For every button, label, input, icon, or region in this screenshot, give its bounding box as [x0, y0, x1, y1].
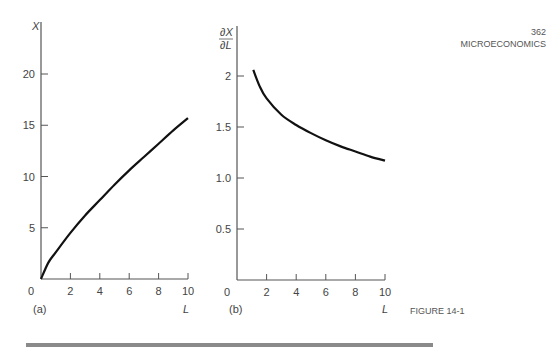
y-axis-label-b: ∂X ∂L [219, 26, 233, 51]
y-tick-label: 10 [23, 171, 35, 183]
x-tick-label: 8 [156, 285, 162, 297]
y-tick-label: 5 [29, 222, 35, 234]
panel-label-b: (b) [229, 303, 242, 315]
panel-b: 02468100.51.01.52 ∂X ∂L L (b) [216, 26, 391, 315]
x-tick-label: 2 [67, 285, 73, 297]
y-label-denominator: ∂L [220, 39, 232, 51]
x-tick-label: 8 [352, 286, 358, 298]
panel-a: 02468105101520 X L (a) [23, 20, 194, 315]
x-axis-label-b: L [382, 303, 388, 315]
curve-b [253, 70, 385, 161]
x-tick-label: 2 [264, 286, 270, 298]
ticks-b: 02468100.51.01.52 [216, 70, 391, 298]
y-tick-label: 0.5 [216, 223, 231, 235]
x-tick-label: 0 [224, 286, 230, 298]
x-tick-label: 6 [126, 285, 132, 297]
y-axis-label-a: X [31, 20, 40, 32]
x-tick-label: 6 [323, 286, 329, 298]
curve-a [41, 118, 188, 279]
panel-label-a: (a) [33, 303, 46, 315]
x-tick-label: 4 [97, 285, 103, 297]
x-tick-label: 10 [379, 286, 391, 298]
y-tick-label: 1.5 [216, 121, 231, 133]
x-tick-label: 4 [293, 286, 299, 298]
y-tick-label: 2 [225, 70, 231, 82]
x-tick-label: 10 [182, 285, 194, 297]
x-axis-label-a: L [183, 303, 189, 315]
figure-caption: FIGURE 14-1 [410, 306, 465, 316]
figure-canvas: 02468105101520 X L (a) 02468100.51.01.52… [0, 0, 552, 352]
page-rule [26, 343, 433, 347]
x-tick-label: 0 [28, 285, 34, 297]
y-tick-label: 20 [23, 68, 35, 80]
y-label-numerator: ∂X [220, 26, 233, 38]
y-tick-label: 1.0 [216, 172, 231, 184]
y-tick-label: 15 [23, 119, 35, 131]
